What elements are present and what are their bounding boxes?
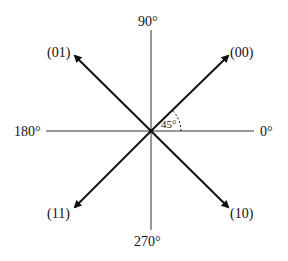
diagram-canvas — [0, 0, 288, 261]
vector-10 — [151, 131, 228, 207]
angle-label: 45° — [161, 119, 176, 130]
vector-11 — [75, 131, 151, 207]
label-11: (11) — [47, 207, 70, 221]
label-01: (01) — [47, 46, 70, 60]
label-0: 0° — [260, 125, 273, 139]
vector-01 — [75, 56, 151, 131]
label-270: 270° — [134, 235, 161, 249]
label-00: (00) — [230, 46, 253, 60]
label-90: 90° — [138, 15, 158, 29]
origin-dot — [149, 129, 153, 133]
label-10: (10) — [230, 207, 253, 221]
label-180: 180° — [14, 125, 41, 139]
qpsk-phase-diagram: 90° 270° 180° 0° (00) (01) (11) (10) 45° — [0, 0, 288, 261]
